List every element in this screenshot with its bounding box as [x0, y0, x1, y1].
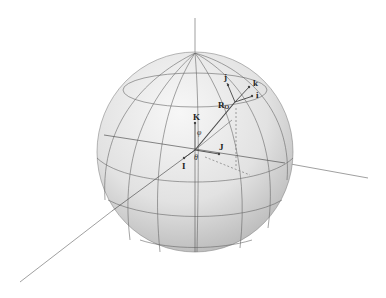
y-axis-outer: [285, 163, 368, 178]
label-k: k: [253, 78, 258, 88]
label-theta: θ: [194, 153, 198, 162]
label-K: K: [193, 112, 200, 122]
label-J: J: [219, 142, 224, 152]
sphere-diagram: K φ θ J I RO j k i: [0, 0, 386, 298]
x-axis-outer: [20, 211, 112, 282]
label-I: I: [182, 161, 186, 171]
label-phi: φ: [197, 128, 202, 137]
label-j: j: [223, 72, 227, 82]
